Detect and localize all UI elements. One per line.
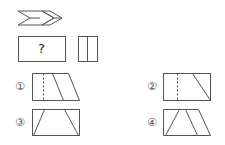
option-4-shape[interactable] bbox=[164, 110, 211, 136]
option-1-label[interactable]: ① bbox=[15, 81, 25, 92]
option-2-label[interactable]: ② bbox=[147, 81, 157, 92]
option-4-label[interactable]: ④ bbox=[147, 117, 157, 128]
puzzle-figure bbox=[0, 0, 225, 145]
option-2-shape[interactable] bbox=[164, 74, 211, 101]
chevron-arrow-icon bbox=[18, 11, 62, 25]
option-3-label[interactable]: ③ bbox=[15, 117, 25, 128]
hint-shape bbox=[79, 37, 98, 62]
option-1-shape[interactable] bbox=[33, 74, 80, 101]
option-3-shape[interactable] bbox=[33, 110, 80, 136]
question-mark: ? bbox=[38, 42, 45, 55]
